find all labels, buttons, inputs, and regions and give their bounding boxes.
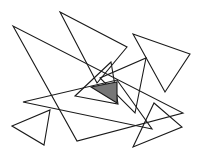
triangles-group bbox=[12, 12, 190, 147]
triangle-outline bbox=[133, 34, 190, 92]
triangle-outline bbox=[13, 26, 183, 141]
triangle-outline bbox=[60, 12, 127, 83]
diagram-svg bbox=[0, 0, 201, 157]
triangle-outline bbox=[133, 103, 182, 147]
triangle-diagram bbox=[0, 0, 201, 157]
triangle-outline bbox=[12, 110, 50, 145]
